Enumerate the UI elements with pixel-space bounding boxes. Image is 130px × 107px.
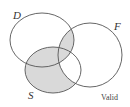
venn-diagram: D F S Valid <box>0 0 130 107</box>
caption-valid: Valid <box>101 93 118 102</box>
label-s: S <box>28 89 34 101</box>
label-d: D <box>12 9 21 21</box>
label-f: F <box>113 20 121 32</box>
venn-svg: D F S Valid <box>0 0 130 107</box>
